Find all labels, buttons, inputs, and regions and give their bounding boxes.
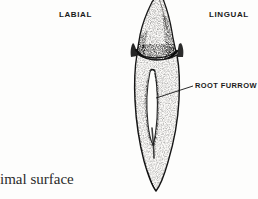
lingual-label: LINGUAL [209,11,249,19]
tooth-figure: LABIAL LINGUAL ROOT FURROW imal surface [0,0,258,199]
tooth-illustration [0,0,258,199]
labial-label: LABIAL [59,11,92,19]
root-furrow-label: ROOT FURROW [195,82,257,90]
proximal-surface-caption: imal surface [0,172,74,187]
